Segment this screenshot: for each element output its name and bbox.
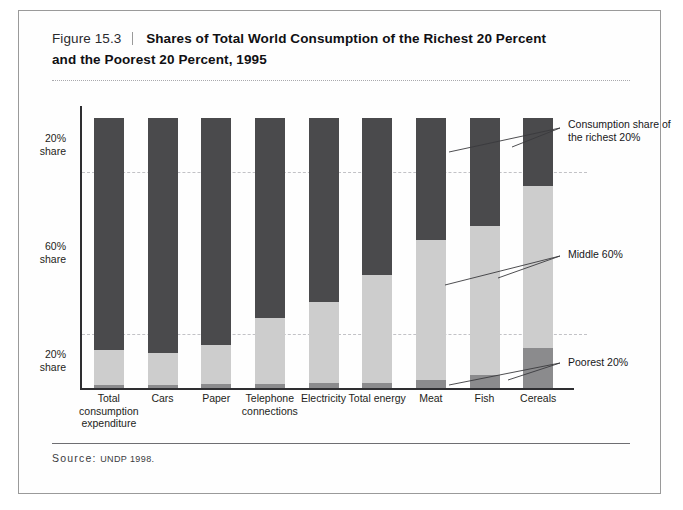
source-rule	[52, 443, 630, 444]
bar-segment	[523, 348, 553, 389]
x-axis-category-label: Meat	[400, 392, 462, 405]
x-axis-category-label: Fish	[454, 392, 516, 405]
bar-segment	[201, 118, 231, 345]
bar-segment	[416, 240, 446, 380]
source-value: UNDP 1998.	[100, 454, 154, 464]
x-axis-category-label: Total energy	[346, 392, 408, 405]
bar-segment	[148, 118, 178, 353]
y-axis-label-2: 20%share	[4, 348, 66, 373]
x-axis-line	[80, 388, 574, 390]
bar-segment	[309, 383, 339, 388]
bar-segment	[416, 118, 446, 240]
bar-column[interactable]	[416, 118, 446, 388]
annotation-middle: Middle 60%	[568, 248, 676, 261]
bar-segment	[255, 384, 285, 388]
bar-segment	[148, 385, 178, 389]
x-axis-category-label: Paper	[185, 392, 247, 405]
bar-segment	[201, 345, 231, 384]
bar-column[interactable]	[201, 118, 231, 388]
bar-segment	[94, 350, 124, 384]
plot-area: 20%share60%share20%shareTotalconsumption…	[82, 118, 565, 388]
bar-column[interactable]	[470, 118, 500, 388]
bar-segment	[309, 118, 339, 302]
x-axis-category-label: Electricity	[293, 392, 355, 405]
bar-column[interactable]	[362, 118, 392, 388]
bar-segment	[523, 186, 553, 348]
x-axis-category-label: Cereals	[507, 392, 569, 405]
bar-segment	[470, 118, 500, 226]
y-axis-label-1: 60%share	[4, 240, 66, 265]
bar-segment	[148, 353, 178, 385]
bar-segment	[470, 375, 500, 389]
x-axis-category-label: Totalconsumptionexpenditure	[78, 392, 140, 430]
bar-column[interactable]	[255, 118, 285, 388]
bar-segment	[201, 384, 231, 388]
bar-segment	[523, 118, 553, 186]
bar-segment	[255, 118, 285, 318]
bar-segment	[362, 118, 392, 275]
bar-segment	[362, 383, 392, 388]
bar-column[interactable]	[309, 118, 339, 388]
bar-segment	[94, 118, 124, 350]
bar-segment	[255, 318, 285, 384]
bar-segment	[416, 380, 446, 388]
x-axis-category-label: Telephoneconnections	[239, 392, 301, 417]
y-axis-label-0: 20%share	[4, 132, 66, 157]
annotation-poorest: Poorest 20%	[568, 356, 676, 369]
annotation-richest: Consumption share of the richest 20%	[568, 118, 676, 144]
bar-segment	[362, 275, 392, 383]
bar-segment	[94, 385, 124, 389]
source-note: Source: UNDP 1998.	[52, 452, 155, 464]
bar-segment	[470, 226, 500, 375]
source-label: Source:	[52, 452, 97, 464]
figure-page: Figure 15.3 Shares of Total World Consum…	[0, 0, 683, 510]
bar-segment	[309, 302, 339, 383]
bar-column[interactable]	[148, 118, 178, 388]
x-axis-category-label: Cars	[132, 392, 194, 405]
bar-column[interactable]	[523, 118, 553, 388]
bar-column[interactable]	[94, 118, 124, 388]
